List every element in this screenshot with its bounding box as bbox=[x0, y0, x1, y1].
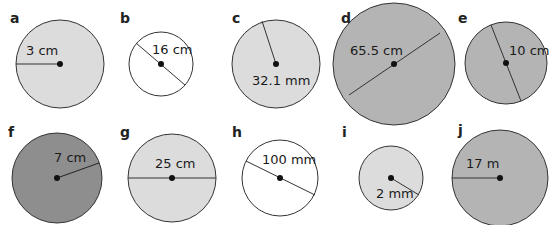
circle-i-label: 2 mm bbox=[376, 186, 414, 201]
circle-f-letter: f bbox=[8, 124, 14, 140]
circle-c-letter: c bbox=[232, 10, 240, 26]
circle-g-letter: g bbox=[120, 124, 130, 140]
circle-c: 32.1 mm bbox=[232, 20, 320, 108]
circle-e: 10 cm bbox=[465, 22, 550, 104]
circle-d-label: 65.5 cm bbox=[350, 43, 403, 58]
circle-e-label: 10 cm bbox=[509, 43, 550, 58]
circle-a-label: 3 cm bbox=[26, 43, 58, 58]
circle-h-letter: h bbox=[232, 124, 242, 140]
circle-b: 16 cm bbox=[129, 32, 193, 96]
circle-a: 3 cm bbox=[16, 20, 104, 108]
circle-e-letter: e bbox=[458, 10, 468, 26]
circle-i-letter: i bbox=[342, 124, 347, 140]
circle-i: 2 mm bbox=[359, 146, 423, 210]
circle-c-label: 32.1 mm bbox=[252, 73, 310, 88]
circle-d-letter: d bbox=[341, 10, 351, 26]
circle-b-label: 16 cm bbox=[152, 42, 193, 57]
circles-diagram: 3 cm 16 cm 32.1 mm 65.5 cm 10 cm 7 cm bbox=[0, 0, 551, 225]
circle-a-letter: a bbox=[10, 10, 19, 26]
circle-d: 65.5 cm bbox=[333, 3, 455, 125]
circle-j-label: 17 m bbox=[466, 156, 499, 171]
circle-j-letter: j bbox=[458, 122, 463, 138]
circle-h-label: 100 mm bbox=[262, 152, 316, 167]
circle-b-letter: b bbox=[120, 10, 130, 26]
circle-g-label: 25 cm bbox=[155, 156, 196, 171]
circle-g: 25 cm bbox=[128, 134, 216, 222]
circle-h: 100 mm bbox=[242, 140, 318, 216]
circle-j: 17 m bbox=[452, 130, 548, 225]
circle-f: 7 cm bbox=[12, 133, 102, 223]
circle-f-label: 7 cm bbox=[54, 150, 86, 165]
